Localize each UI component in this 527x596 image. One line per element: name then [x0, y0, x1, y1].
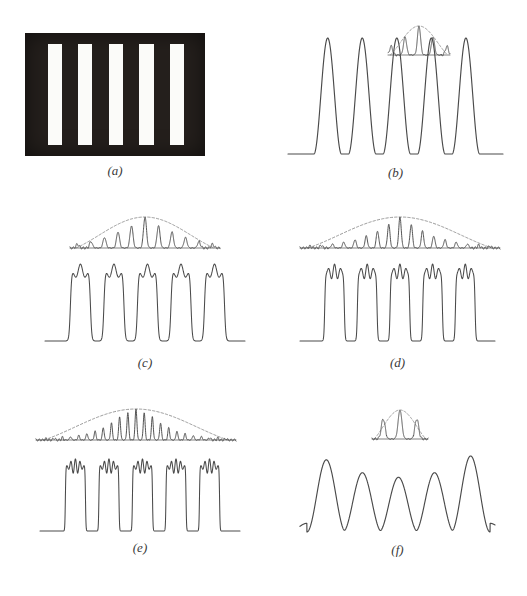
panel-d — [300, 255, 495, 345]
panel-e-spectrum-inset — [36, 405, 236, 447]
panel-e-inset — [36, 405, 236, 447]
panel-c — [45, 255, 245, 345]
panel-f-spectrum-inset — [372, 406, 428, 446]
panel-label-c: (c) — [45, 355, 245, 371]
panel-label-e: (e) — [40, 540, 240, 556]
panel-c-inset — [70, 213, 220, 255]
panel-f — [300, 450, 495, 540]
panel-e-plot — [40, 450, 240, 535]
grating-slit — [170, 44, 184, 145]
panel-c-spectrum-inset — [70, 213, 220, 255]
panel-c-plot — [45, 255, 245, 345]
panel-b-spectrum-inset — [388, 22, 450, 62]
figure-panel-grid: (a) (b) (c) (d) (e) (f) — [0, 0, 527, 596]
panel-label-b: (b) — [288, 165, 503, 181]
panel-a — [25, 33, 205, 156]
panel-label-d: (d) — [300, 355, 495, 371]
panel-b-inset — [388, 22, 450, 62]
panel-f-plot — [300, 450, 495, 540]
grating-slit — [78, 44, 92, 145]
grating-slit — [139, 44, 153, 145]
panel-label-f: (f) — [300, 542, 495, 558]
panel-d-plot — [300, 255, 495, 345]
panel-d-inset — [300, 213, 500, 255]
panel-label-a: (a) — [25, 163, 205, 179]
grating-photograph — [25, 33, 205, 156]
grating-slit — [109, 44, 123, 145]
panel-e — [40, 450, 240, 535]
panel-f-inset — [372, 406, 428, 446]
panel-d-spectrum-inset — [300, 213, 500, 255]
grating-slit — [48, 44, 62, 145]
